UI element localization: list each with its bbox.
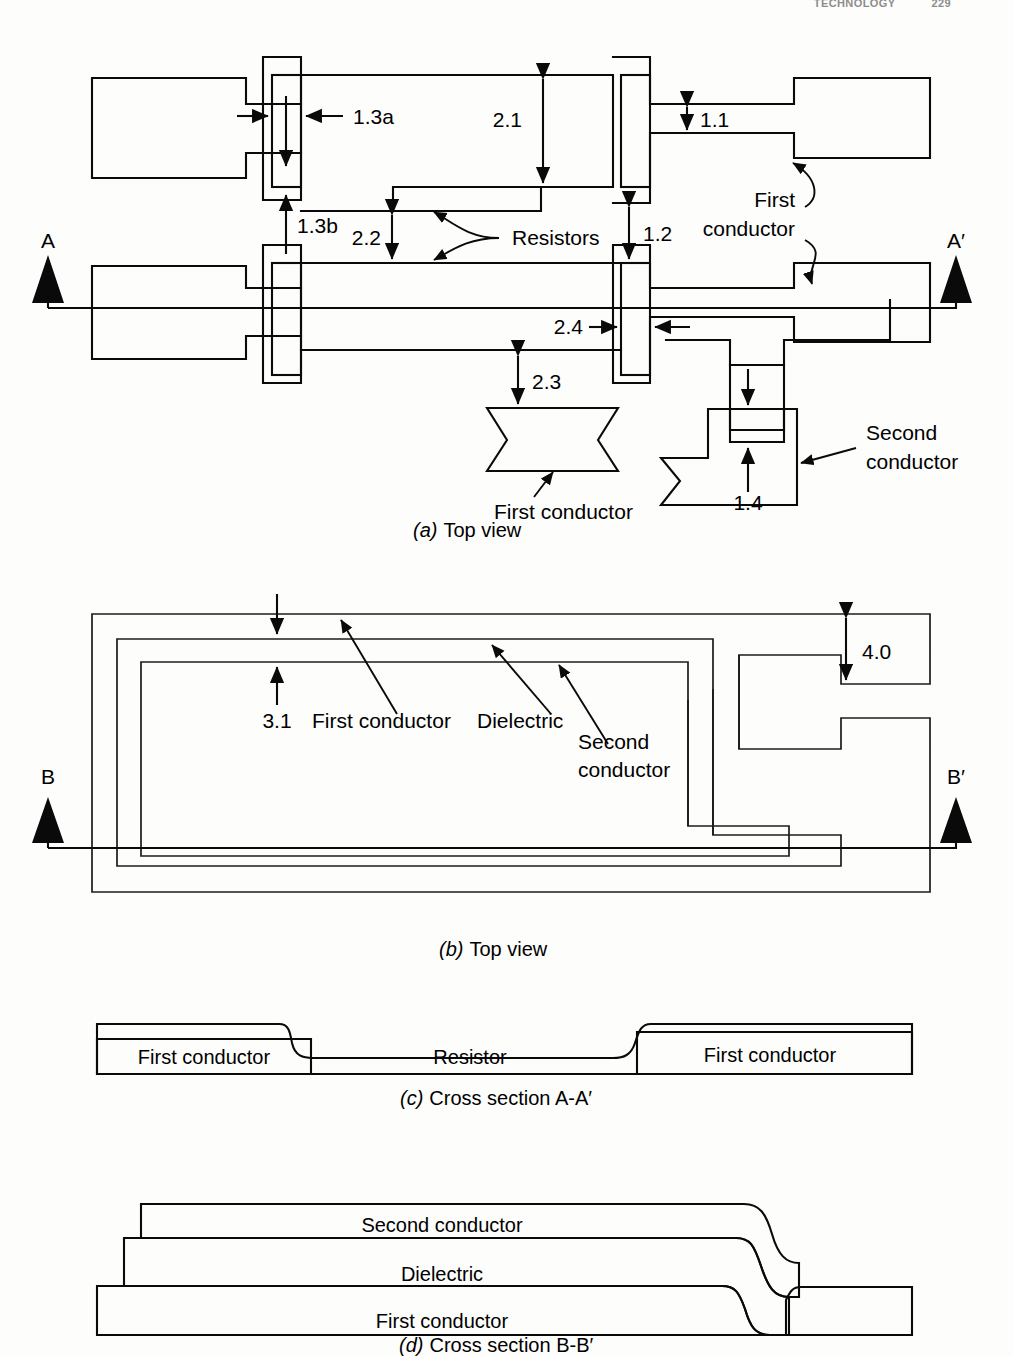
section-line-aa [48,292,956,308]
leader-first-conductor-a2 [534,472,553,497]
section-mark-b-right: B′ [947,765,965,788]
second-conductor-outline-a [666,300,890,365]
figure-page: TECHNOLOGY229 [0,0,1013,1356]
leader-dielectric-b [492,645,551,714]
caption-c: (c)Cross section A-A′ [400,1087,592,1109]
annotation-second-conductor-b-line2: conductor [578,758,670,781]
dim-label-1-1: 1.1 [700,108,729,131]
leader-resistors-lower [434,238,499,260]
resistor-3-body [272,263,301,375]
leader-first-conductor-b [341,620,397,714]
ring-dielectric [117,639,841,866]
section-arrow-b-left [32,797,64,843]
xsec-d-label-second-conductor: Second conductor [361,1214,523,1236]
xsec-c-label-first-conductor-right: First conductor [704,1044,837,1066]
xsec-c-label-resistor: Resistor [433,1046,507,1068]
ring-second-conductor [92,614,930,892]
dim-label-3-1: 3.1 [262,709,291,732]
dim-label-2-3: 2.3 [532,370,561,393]
xsec-d-label-dielectric: Dielectric [401,1263,483,1285]
section-mark-a-right: A′ [947,229,965,252]
annotation-dielectric-b: Dielectric [477,709,563,732]
dim-label-2-1: 2.1 [493,108,522,131]
conductor-strip-upper [301,75,613,211]
dim-label-2-4: 2.4 [554,315,584,338]
resistor-4-body [621,263,650,375]
annotation-second-conductor-a-line1: Second [866,421,937,444]
resistor-2-body [621,75,650,187]
annotation-first-conductor-a-line1: First [754,188,795,211]
section-arrow-a-right [940,255,972,303]
panel-b-top-view: B B′ 3.1 4.0 First conductor Dielectric … [32,594,972,960]
dim-label-1-3b: 1.3b [297,214,338,237]
section-mark-a-left: A [41,229,55,252]
dim-label-1-2: 1.2 [643,222,672,245]
dim-label-1-3a: 1.3a [353,105,394,128]
conductor-strip-upper-lower-edge [393,187,541,211]
caption-a: (a)Top view [413,519,522,541]
panel-a-top-view: A A′ 1.3a 1.3b 2.1 2.2 1.1 1.2 [32,57,972,541]
annotation-resistors: Resistors [512,226,600,249]
caption-b: (b)Top view [439,938,548,960]
conductor-neck-lower-left [263,245,301,383]
annotation-first-conductor-b: First conductor [312,709,451,732]
panel-c-cross-section: First conductor Resistor First conductor… [97,1024,912,1109]
second-conductor-outline-a2 [730,365,784,430]
conductor-neck-upper-right [613,57,930,203]
panel-d-cross-section: Second conductor Dielectric First conduc… [97,1204,912,1356]
leader-resistors-upper [434,212,499,238]
dim-label-4-0: 4.0 [862,640,891,663]
ring-first-conductor [141,662,789,856]
figure-canvas: A A′ 1.3a 1.3b 2.1 2.2 1.1 1.2 [0,0,1013,1356]
leader-first-conductor-a-top [793,163,814,207]
conductor-neck-lower-right [613,245,930,383]
annotation-second-conductor-a-line2: conductor [866,450,958,473]
conductor-pad-lower-left [92,266,301,359]
leader-second-conductor-a [801,448,856,463]
xsec-c-label-first-conductor-left: First conductor [138,1046,271,1068]
dim-label-1-4: 1.4 [733,491,763,514]
conductor-pad-upper-left [92,78,301,178]
second-conductor-window [730,409,784,442]
section-arrow-b-right [940,797,972,843]
conductor-neck-upper-left [263,57,301,200]
caption-d: (d)Cross section B-B′ [399,1334,594,1356]
xsec-d-label-first-conductor: First conductor [376,1310,509,1332]
section-arrow-a-left [32,255,64,303]
annotation-second-conductor-b-line1: Second [578,730,649,753]
annotation-first-conductor-a-line2: conductor [703,217,795,240]
break-symbol-first-conductor [487,408,618,471]
section-mark-b-left: B [41,765,55,788]
dim-label-2-2: 2.2 [352,226,381,249]
